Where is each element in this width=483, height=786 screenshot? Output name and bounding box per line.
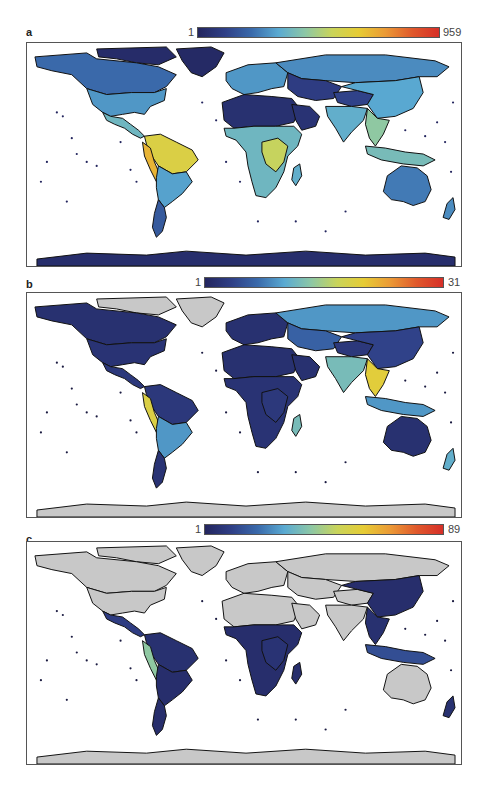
island-speck (119, 640, 121, 642)
island-speck (66, 200, 68, 202)
island-speck (201, 600, 203, 602)
island-speck (40, 431, 42, 433)
island-speck (46, 411, 48, 413)
island-speck (295, 220, 297, 222)
island-speck (444, 141, 446, 143)
island-speck (86, 161, 88, 163)
island-speck (450, 171, 452, 173)
island-speck (239, 679, 241, 681)
island-speck (119, 141, 121, 143)
island-speck (56, 111, 58, 113)
island-speck (135, 431, 137, 433)
island-speck (129, 667, 131, 669)
island-speck (450, 421, 452, 423)
island-speck (215, 119, 217, 121)
region-sahara (222, 95, 300, 129)
panel-b: b 1 31 (0, 274, 483, 520)
map-canvas (27, 43, 461, 266)
island-speck (257, 220, 259, 222)
island-speck (424, 634, 426, 636)
world-map (26, 292, 462, 518)
island-speck (239, 181, 241, 183)
island-speck (325, 728, 327, 730)
island-speck (344, 461, 346, 463)
world-map (26, 42, 462, 267)
island-speck (344, 709, 346, 711)
island-speck (40, 679, 42, 681)
panel-c: c 1 89 (0, 521, 483, 767)
colorbar (197, 27, 440, 38)
island-speck (135, 679, 137, 681)
island-speck (71, 137, 73, 139)
island-speck (76, 651, 78, 653)
colorbar (204, 277, 444, 288)
island-speck (62, 366, 64, 368)
panel-label: b (26, 278, 33, 290)
island-speck (119, 391, 121, 393)
island-speck (404, 380, 406, 382)
island-speck (62, 614, 64, 616)
island-speck (86, 659, 88, 661)
island-speck (201, 101, 203, 103)
island-speck (436, 121, 438, 123)
colorbar-max-label: 959 (443, 26, 461, 38)
island-speck (86, 411, 88, 413)
island-speck (257, 471, 259, 473)
island-speck (40, 181, 42, 183)
island-speck (225, 411, 227, 413)
island-speck (46, 659, 48, 661)
island-speck (444, 640, 446, 642)
island-speck (424, 135, 426, 137)
map-canvas (27, 293, 461, 517)
island-speck (325, 481, 327, 483)
panel-label: a (26, 26, 32, 38)
island-speck (295, 719, 297, 721)
island-speck (96, 415, 98, 417)
island-speck (62, 115, 64, 117)
island-speck (71, 387, 73, 389)
colorbar-min-label: 1 (181, 276, 201, 288)
island-speck (436, 372, 438, 374)
island-speck (66, 451, 68, 453)
island-speck (201, 352, 203, 354)
island-speck (239, 431, 241, 433)
island-speck (344, 210, 346, 212)
island-speck (129, 419, 131, 421)
island-speck (76, 153, 78, 155)
island-speck (46, 161, 48, 163)
world-map (26, 541, 462, 765)
island-speck (452, 600, 454, 602)
island-speck (96, 663, 98, 665)
region-sahara (222, 345, 300, 379)
island-speck (225, 659, 227, 661)
island-speck (424, 385, 426, 387)
island-speck (452, 352, 454, 354)
island-speck (215, 370, 217, 372)
map-canvas (27, 542, 461, 764)
island-speck (56, 610, 58, 612)
region-sahara (222, 593, 300, 627)
island-speck (66, 699, 68, 701)
island-speck (71, 636, 73, 638)
colorbar (204, 524, 444, 535)
island-speck (76, 403, 78, 405)
colorbar-min-label: 1 (181, 523, 201, 535)
island-speck (129, 169, 131, 171)
island-speck (450, 669, 452, 671)
island-speck (325, 230, 327, 232)
island-speck (257, 719, 259, 721)
island-speck (404, 129, 406, 131)
island-speck (295, 471, 297, 473)
island-speck (225, 161, 227, 163)
colorbar-min-label: 1 (174, 26, 194, 38)
island-speck (135, 181, 137, 183)
island-speck (215, 618, 217, 620)
colorbar-max-label: 31 (448, 276, 460, 288)
island-speck (96, 165, 98, 167)
colorbar-max-label: 89 (448, 523, 460, 535)
island-speck (56, 362, 58, 364)
panel-a: a 1 959 (0, 22, 483, 268)
island-speck (436, 620, 438, 622)
island-speck (444, 391, 446, 393)
island-speck (404, 628, 406, 630)
